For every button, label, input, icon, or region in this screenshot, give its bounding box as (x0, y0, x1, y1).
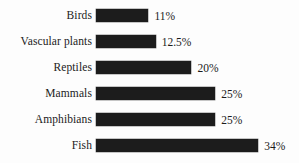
bar (96, 61, 191, 74)
bar (96, 139, 258, 152)
bar-track: 12.5% (96, 35, 191, 48)
bar-track: 25% (96, 113, 242, 126)
bar (96, 87, 215, 100)
bar-chart: Birds 11% Vascular plants 12.5% Reptiles… (0, 0, 299, 163)
category-label: Birds (0, 2, 92, 28)
value-label: 25% (221, 114, 242, 126)
bar (96, 35, 156, 48)
bar (96, 113, 215, 126)
chart-row: Vascular plants 12.5% (0, 28, 299, 54)
category-label: Vascular plants (0, 28, 92, 54)
category-label: Reptiles (0, 54, 92, 80)
category-label: Mammals (0, 80, 92, 106)
bar-track: 20% (96, 61, 218, 74)
chart-row: Fish 34% (0, 132, 299, 158)
chart-row: Birds 11% (0, 2, 299, 28)
bar-track: 25% (96, 87, 242, 100)
bar-track: 11% (96, 9, 175, 22)
value-label: 20% (197, 62, 218, 74)
category-label: Amphibians (0, 106, 92, 132)
bar (96, 9, 148, 22)
value-label: 25% (221, 88, 242, 100)
bar-track: 34% (96, 139, 285, 152)
chart-row: Reptiles 20% (0, 54, 299, 80)
value-label: 11% (154, 10, 175, 22)
value-label: 34% (264, 140, 285, 152)
value-label: 12.5% (162, 36, 192, 48)
chart-row: Mammals 25% (0, 80, 299, 106)
category-label: Fish (0, 132, 92, 158)
chart-row: Amphibians 25% (0, 106, 299, 132)
